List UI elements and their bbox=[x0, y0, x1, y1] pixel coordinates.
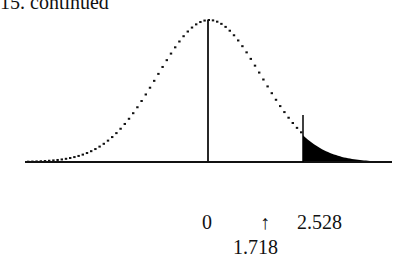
test-statistic-label: 1.718 bbox=[233, 237, 278, 257]
mean-label: 0 bbox=[202, 212, 212, 232]
shaded-tail-region bbox=[303, 135, 392, 162]
arrow-icon: ↑ bbox=[260, 212, 270, 232]
bell-curve-dotted bbox=[27, 19, 302, 163]
critical-value-label: 2.528 bbox=[297, 212, 342, 232]
